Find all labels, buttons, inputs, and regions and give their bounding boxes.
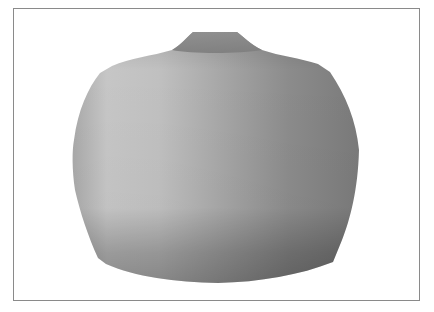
vase-neck	[172, 32, 262, 53]
vase-render	[0, 0, 434, 312]
vase-body	[73, 32, 359, 283]
